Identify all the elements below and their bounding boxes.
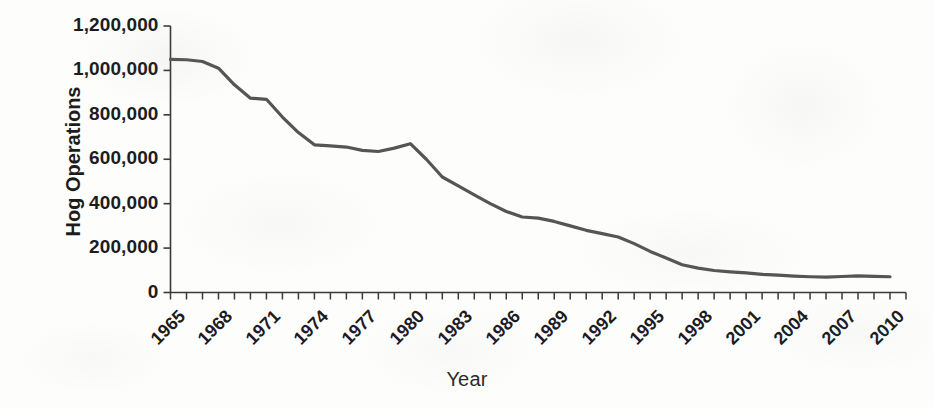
- axis-lines: [170, 26, 906, 293]
- y-tick-label: 1,000,000: [73, 58, 158, 80]
- y-axis-title: Hog Operations: [62, 42, 85, 282]
- x-axis-ticks: [171, 293, 907, 300]
- y-axis-ticks: [164, 26, 171, 293]
- y-tick-label: 800,000: [89, 103, 158, 125]
- y-tick-label: 400,000: [89, 192, 158, 214]
- y-tick-label: 0: [148, 281, 159, 303]
- x-axis-title: Year: [0, 368, 934, 391]
- y-tick-label: 200,000: [89, 236, 158, 258]
- y-tick-label: 1,200,000: [73, 14, 158, 36]
- chart-figure: 0200,000400,000600,000800,0001,000,0001,…: [0, 0, 934, 407]
- y-tick-label: 600,000: [89, 147, 158, 169]
- hog-operations-line: [171, 59, 891, 277]
